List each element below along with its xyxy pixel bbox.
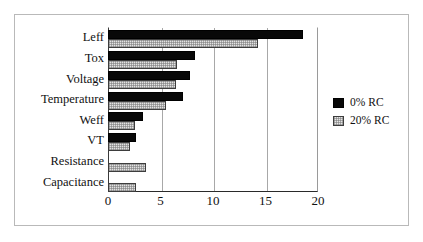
bar-vt-20pct: [108, 142, 130, 151]
y-tick-label: Resistance: [51, 155, 104, 168]
y-tick-label: Voltage: [66, 72, 104, 85]
bar-weff-0pct: [108, 112, 143, 121]
x-tick-label: 20: [312, 194, 325, 207]
chart-legend: 0% RC 20% RC: [333, 95, 403, 131]
x-tick-label: 10: [207, 194, 220, 207]
bar-voltage-20pct: [108, 80, 176, 89]
bar-vt-0pct: [108, 133, 136, 142]
bar-tox-0pct: [108, 51, 195, 60]
x-tick-label: 15: [259, 194, 272, 207]
y-tick-label: Capacitance: [43, 175, 104, 188]
x-tick-label: 5: [157, 194, 164, 207]
y-tick-label: Leff: [83, 31, 104, 44]
legend-item-0pct-rc: 0% RC: [333, 95, 403, 110]
bar-temperature-20pct: [108, 101, 166, 110]
bar-tox-20pct: [108, 60, 177, 69]
y-tick-label: Tox: [85, 52, 104, 65]
legend-label: 0% RC: [350, 97, 384, 109]
y-axis-labels: Leff Tox Voltage Temperature Weff VT Res…: [10, 27, 106, 192]
x-axis-labels: 0 5 10 15 20: [108, 194, 318, 216]
y-tick-label: Weff: [80, 114, 104, 127]
chart-figure: Leff Tox Voltage Temperature Weff VT Res…: [0, 0, 423, 242]
bars-layer: [108, 27, 318, 192]
legend-label: 20% RC: [350, 115, 389, 127]
bar-resistance-20pct: [108, 163, 146, 172]
bar-temperature-0pct: [108, 92, 183, 101]
legend-item-20pct-rc: 20% RC: [333, 113, 403, 128]
bar-weff-20pct: [108, 121, 135, 130]
x-tick-label: 0: [105, 194, 112, 207]
bar-capacitance-20pct: [108, 183, 136, 192]
y-tick-label: VT: [87, 134, 104, 147]
bar-leff-0pct: [108, 30, 303, 39]
legend-swatch-icon: [333, 98, 344, 108]
y-tick-label: Temperature: [41, 93, 104, 106]
bar-voltage-0pct: [108, 71, 190, 80]
legend-swatch-icon: [333, 116, 344, 126]
bar-leff-20pct: [108, 39, 258, 48]
